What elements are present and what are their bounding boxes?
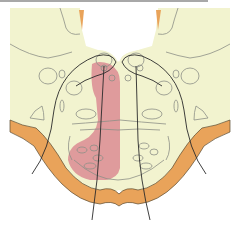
brainstem-diagram [0,0,238,231]
